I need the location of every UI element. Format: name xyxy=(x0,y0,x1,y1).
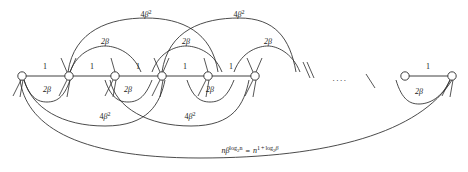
node-n1[interactable] xyxy=(18,72,26,80)
arc-label-bottom-2beta-1: 2β xyxy=(43,86,51,94)
edge-label-spine-6: 1 xyxy=(426,63,430,71)
fan-up-n6-a xyxy=(247,58,253,72)
arc-label-bottom-2beta-4: 2β xyxy=(415,88,423,96)
formula-lhs-log: log xyxy=(229,145,237,151)
node-fans xyxy=(13,58,453,97)
arc-label-bottom-4beta2-1: 4β2 xyxy=(100,111,111,122)
fan-n5-a xyxy=(198,80,206,96)
total-cost-formula: nβlog2n=n1+log2β xyxy=(221,145,278,156)
edge-label-spine-2: 1 xyxy=(90,63,94,71)
arc-label-bottom-2beta-3: 2β xyxy=(206,86,214,94)
fan-n6-a xyxy=(245,80,253,96)
arc-label-top-2beta-2: 2β xyxy=(182,38,190,46)
node-n2[interactable] xyxy=(65,72,73,80)
formula-rhs-beta: β xyxy=(276,145,279,151)
formula-rhs-log: log xyxy=(265,145,273,151)
fan-up-n2-a xyxy=(61,58,67,72)
fan-up-tail-a xyxy=(303,62,310,78)
ellipsis-dots: .... xyxy=(333,73,348,83)
arc-label-bottom-4beta2-2: 4β2 xyxy=(185,111,196,122)
node-n5[interactable] xyxy=(204,72,212,80)
node-n7[interactable] xyxy=(401,72,409,80)
exponent-2: 2 xyxy=(148,9,151,15)
lower-arcs-4beta2 xyxy=(24,80,249,126)
fan-up-tail-b xyxy=(307,62,314,78)
node-n3[interactable] xyxy=(111,72,119,80)
edge-label-spine-4: 1 xyxy=(183,63,187,71)
formula-lhs-exponent: log2n xyxy=(229,145,242,151)
exponent-2: 2 xyxy=(192,111,195,117)
node-n4[interactable] xyxy=(158,72,166,80)
fan-up-n3-a xyxy=(111,58,115,72)
fan-up-n4-b xyxy=(163,58,169,72)
fan-n1-a xyxy=(13,80,21,96)
edge-label-spine-5: 1 xyxy=(229,63,233,71)
arc-label-top-2beta-1: 2β xyxy=(101,38,109,46)
edge-label-spine-3: 1 xyxy=(136,63,140,71)
arc-label-top-4beta2-2: 4β2 xyxy=(234,9,245,20)
formula-equals: = xyxy=(243,146,254,155)
recursion-tree-figure: 1 1 1 1 1 1 2β 2β 2β 4β2 4β2 2β 2β 2β 2β… xyxy=(0,0,468,172)
formula-rhs-exponent: 1+log2β xyxy=(257,145,279,151)
exponent-2: 2 xyxy=(241,9,244,15)
arc-label-top-2beta-3: 2β xyxy=(264,38,272,46)
node-n8[interactable] xyxy=(448,72,456,80)
fan-tail-left xyxy=(366,74,375,88)
fan-up-n5-a xyxy=(204,58,208,72)
node-n6[interactable] xyxy=(251,72,259,80)
edge-label-spine-1: 1 xyxy=(43,63,47,71)
fan-n4-a xyxy=(152,80,160,96)
exponent-2: 2 xyxy=(107,111,110,117)
arc-label-top-4beta2-1: 4β2 xyxy=(141,9,152,20)
arc-top-2beta-1 xyxy=(70,46,141,72)
arc-label-bottom-2beta-2: 2β xyxy=(124,86,132,94)
fan-n6-b xyxy=(253,80,256,97)
lower-arcs-2beta xyxy=(24,80,450,104)
fan-up-n6-b xyxy=(256,58,262,72)
